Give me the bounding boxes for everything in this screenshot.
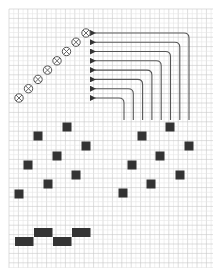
filled-square: [166, 123, 175, 132]
filled-square: [119, 189, 128, 198]
diagram-canvas: [0, 0, 223, 279]
crossed-circle-icon: [82, 29, 90, 37]
filled-bar: [15, 237, 34, 246]
crossed-circle-icon: [24, 85, 32, 93]
filled-square: [15, 190, 24, 199]
crossed-circle-icon: [62, 47, 70, 55]
filled-square: [138, 132, 147, 141]
filled-square: [63, 123, 72, 132]
filled-square: [44, 180, 53, 189]
filled-square: [24, 161, 33, 170]
filled-bar: [72, 228, 91, 237]
filled-bar: [53, 237, 72, 246]
crossed-circle-icon: [15, 94, 23, 102]
crossed-circle-icon: [72, 38, 80, 46]
crossed-circle-icon: [34, 75, 42, 83]
filled-square: [147, 180, 156, 189]
filled-square: [34, 132, 43, 141]
crossed-circle-icon: [53, 57, 61, 65]
crossed-circle-icon: [43, 66, 51, 74]
filled-bar: [34, 228, 53, 237]
filled-square: [176, 171, 185, 180]
filled-square: [72, 171, 81, 180]
filled-square: [156, 152, 165, 161]
filled-square: [53, 152, 62, 161]
filled-square: [128, 161, 137, 170]
filled-square: [82, 142, 91, 151]
filled-square: [185, 142, 194, 151]
